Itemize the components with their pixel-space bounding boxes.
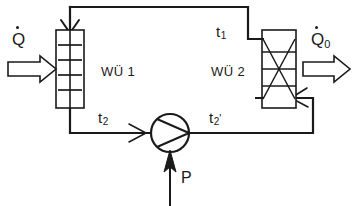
power-input-label: P: [181, 170, 192, 186]
t1-subscript: 1: [220, 30, 226, 41]
q-out-dot-accent: [315, 26, 318, 29]
heat-input-label: Q: [12, 31, 25, 48]
q-out-subscript: 0: [324, 38, 330, 50]
heat-in-block-arrow: [8, 56, 56, 82]
heat-exchanger-1-label: WÜ 1: [101, 65, 135, 78]
diagram-canvas: [0, 0, 357, 206]
pipe-top-run: [70, 7, 262, 39]
q-in-symbol: Q: [12, 30, 25, 49]
power-input-arrow: [164, 150, 176, 206]
temperature-label-t1: t1: [216, 24, 226, 41]
temperature-label-t2-prime: t2': [209, 110, 221, 127]
t2-subscript: 2: [102, 116, 108, 127]
t2prime-prime-mark: ': [219, 112, 221, 124]
heat-out-block-arrow: [303, 56, 350, 82]
heat-output-label: Q0: [311, 31, 330, 50]
q-out-symbol: Q: [311, 30, 324, 49]
temperature-label-t2: t2: [98, 110, 108, 127]
q-in-dot-accent: [16, 26, 19, 29]
process-flow-diagram: Q Q0 WÜ 1 WÜ 2 t1 t2 t2' P: [0, 0, 357, 206]
pump-symbol: [151, 114, 189, 152]
heat-exchanger-1-symbol: [56, 30, 84, 108]
heat-exchanger-2-label: WÜ 2: [211, 65, 245, 78]
heat-exchanger-2-symbol: [255, 30, 296, 108]
